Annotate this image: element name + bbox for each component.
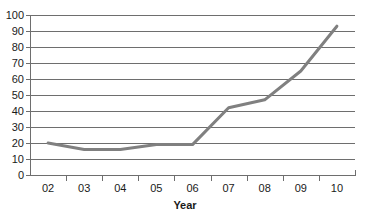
x-tick-mark <box>66 176 67 181</box>
x-tick-mark <box>211 176 212 181</box>
x-tick-mark <box>174 176 175 181</box>
x-tick-label: 09 <box>286 183 316 194</box>
x-tick-label: 05 <box>141 183 171 194</box>
x-tick-mark <box>319 176 320 181</box>
series-line-0 <box>48 26 337 149</box>
x-tick-mark <box>30 170 31 176</box>
x-tick-label: 02 <box>33 183 63 194</box>
x-tick-mark <box>283 176 284 181</box>
x-tick-label: 07 <box>214 183 244 194</box>
x-tick-mark <box>247 176 248 181</box>
line-chart: 0102030405060708090100 02030405060708091… <box>0 0 370 220</box>
x-tick-label: 03 <box>69 183 99 194</box>
x-tick-mark <box>138 176 139 181</box>
x-axis-title: Year <box>0 200 370 211</box>
x-tick-label: 04 <box>105 183 135 194</box>
x-tick-label: 06 <box>178 183 208 194</box>
x-tick-mark <box>355 170 356 176</box>
x-tick-label: 10 <box>322 183 352 194</box>
x-tick-mark <box>102 176 103 181</box>
x-tick-label: 08 <box>250 183 280 194</box>
